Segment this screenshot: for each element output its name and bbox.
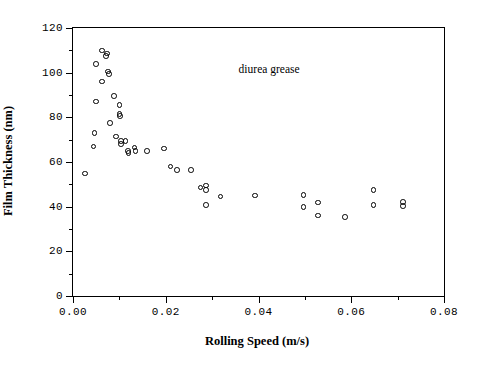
data-point [123,138,129,144]
data-point [342,214,348,220]
annotation-diurea-grease: diurea grease [239,63,300,75]
y-axis-tick-label: 120 [42,22,63,34]
data-point [104,51,110,57]
y-axis-minor-tick [69,140,73,141]
data-point [252,193,258,199]
y-axis-tick [66,296,73,297]
data-point [133,148,139,154]
data-point [93,99,99,105]
scatter-plot-figure: 0204060801001200.000.020.040.060.08 Film… [0,0,479,371]
x-axis-tick [166,296,167,303]
x-axis-title: Rolling Speed (m/s) [205,334,309,349]
y-axis-tick [66,117,73,118]
y-axis-tick-label: 40 [49,201,63,213]
data-point [106,71,112,77]
data-point [188,167,194,173]
data-point [371,187,377,193]
y-axis-title: Film Thickness (nm) [1,106,16,216]
data-point [315,200,321,206]
x-axis-minor-tick [119,296,120,300]
data-point [315,213,321,219]
x-axis-minor-tick [398,296,399,300]
data-point [400,203,406,209]
data-point [99,79,105,85]
y-axis-tick [66,207,73,208]
y-axis-tick-label: 60 [49,156,63,168]
y-axis-tick [66,162,73,163]
y-axis-minor-tick [69,184,73,185]
data-point [301,204,307,210]
y-axis-minor-tick [69,274,73,275]
y-axis-tick [66,28,73,29]
y-axis-minor-tick [69,229,73,230]
x-axis-tick [351,296,352,303]
data-point [301,192,307,198]
data-point [203,202,209,208]
data-point [111,93,117,99]
x-axis-tick [444,296,445,303]
y-axis-tick-label: 0 [56,290,63,302]
data-point [174,167,180,173]
data-point [161,146,167,152]
data-point [218,194,224,200]
x-axis-tick [259,296,260,303]
y-axis-tick [66,251,73,252]
y-axis-tick [66,73,73,74]
x-axis-tick-label: 0.02 [152,306,180,318]
x-axis-tick-label: 0.06 [337,306,365,318]
x-axis-tick-label: 0.00 [59,306,87,318]
x-axis-minor-tick [212,296,213,300]
y-axis-minor-tick [69,95,73,96]
data-point [82,171,88,177]
data-point [93,61,99,67]
data-point [168,164,174,170]
data-point [91,144,97,150]
x-axis-tick [73,296,74,303]
y-axis-tick-label: 80 [49,111,63,123]
x-axis-tick-label: 0.04 [244,306,272,318]
y-axis-minor-tick [69,50,73,51]
y-axis-tick-label: 100 [42,67,63,79]
x-axis-tick-label: 0.08 [430,306,458,318]
data-point [371,202,377,208]
y-axis-tick-label: 20 [49,245,63,257]
data-point [126,150,132,156]
x-axis-minor-tick [305,296,306,300]
data-point [92,130,98,136]
data-point [203,187,209,193]
data-point [144,148,150,154]
data-point [107,120,113,126]
data-point [117,102,123,108]
data-point [117,113,123,119]
